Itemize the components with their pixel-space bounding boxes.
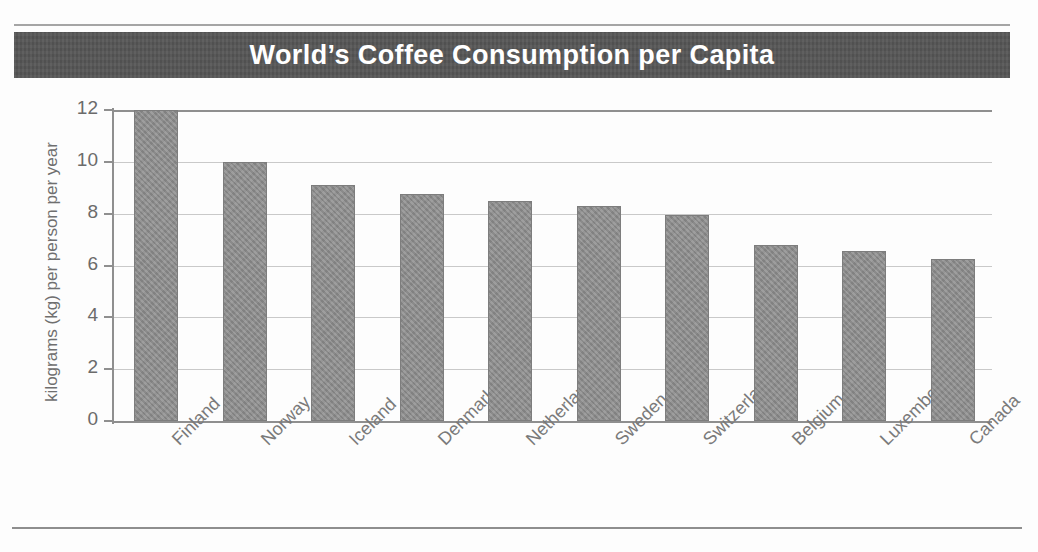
bottom-divider-rule xyxy=(12,527,1022,529)
plot-area: 024681012 kilograms (kg) per person per … xyxy=(0,0,1038,552)
y-tick-2 xyxy=(104,368,114,370)
y-tick-8 xyxy=(104,213,114,215)
bar xyxy=(488,201,532,421)
bar xyxy=(931,259,975,421)
bar xyxy=(665,215,709,421)
bar xyxy=(400,194,444,421)
figure-container: World’s Coffee Consumption per Capita 02… xyxy=(0,0,1038,552)
y-tick-0 xyxy=(104,420,114,422)
bar xyxy=(311,185,355,421)
y-tick-12 xyxy=(104,109,114,111)
y-tick-6 xyxy=(104,265,114,267)
y-tick-4 xyxy=(104,316,114,318)
bar xyxy=(577,206,621,421)
bar xyxy=(223,162,267,421)
chart-title: World’s Coffee Consumption per Capita xyxy=(250,40,775,71)
bar xyxy=(842,251,886,421)
bar xyxy=(754,245,798,421)
bar xyxy=(134,110,178,421)
y-tick-10 xyxy=(104,161,114,163)
bars-layer: FinlandNorwayIcelandDenmarkNetherlandsSw… xyxy=(0,0,1038,552)
